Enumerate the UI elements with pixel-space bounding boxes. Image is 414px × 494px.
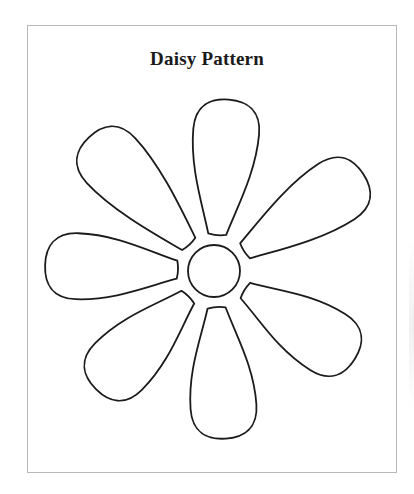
petal-top xyxy=(184,97,262,238)
daisy-pattern-drawing xyxy=(0,0,414,494)
petal-bottom xyxy=(184,305,259,441)
petal-left xyxy=(44,232,179,303)
flower-center-circle xyxy=(188,245,240,297)
